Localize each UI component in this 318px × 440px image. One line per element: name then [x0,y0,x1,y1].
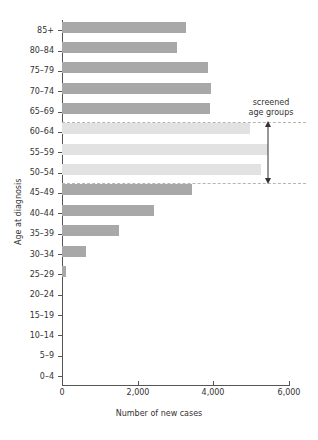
y-axis-tick [58,356,62,357]
y-axis-tick-label: 45–49 [0,188,54,197]
bar-35-39 [62,225,119,236]
screened-age-groups-label-line1: screened [228,98,314,108]
y-axis-tick-label: 70–74 [0,87,54,96]
y-axis-tick-label: 35–39 [0,229,54,238]
bar-40-44 [62,205,154,216]
x-axis-tick [62,381,63,385]
screened-range-arrow-icon [260,120,276,185]
y-axis-line [62,20,63,386]
bar-50-54 [62,164,261,175]
y-axis-tick-label: 10–14 [0,331,54,340]
bar-55-59 [62,144,268,155]
y-axis-tick-label: 15–19 [0,311,54,320]
y-axis-tick-label: 65–69 [0,107,54,116]
bar-45-49 [62,184,192,195]
bar-70-74 [62,83,211,94]
y-axis-tick-label: 50–54 [0,168,54,177]
bar-65-69 [62,103,210,114]
bar-60-64 [62,123,250,134]
y-axis-tick-label: 5–9 [0,351,54,360]
y-axis-tick [58,335,62,336]
bar-25-29 [62,266,66,277]
screened-age-groups-label-line2: age groups [228,108,314,118]
x-axis-tick-label: 4,000 [202,388,225,397]
y-axis-tick-label: 30–34 [0,250,54,259]
x-axis-tick-label: 2,000 [127,388,150,397]
bar-80-84 [62,42,177,53]
x-axis-tick-label: 6,000 [278,388,301,397]
bar-75-79 [62,62,208,73]
y-axis-tick [58,376,62,377]
y-axis-tick [58,315,62,316]
y-axis-tick-label: 75–79 [0,66,54,75]
y-axis-tick-label: 20–24 [0,290,54,299]
x-axis-tick-label: 0 [59,388,64,397]
x-axis-tick [289,381,290,385]
bar-85+ [62,22,186,33]
y-axis-title: Age at diagnosis [14,179,23,245]
x-axis-tick [138,381,139,385]
x-axis-tick [213,381,214,385]
horizontal-bar-chart: 0–45–910–1415–1920–2425–2930–3435–3940–4… [0,0,318,440]
x-axis-line [62,385,290,386]
x-axis-title: Number of new cases [0,409,318,418]
bar-30-34 [62,246,86,257]
y-axis-tick [58,295,62,296]
y-axis-tick-label: 40–44 [0,209,54,218]
y-axis-tick-label: 60–64 [0,127,54,136]
y-axis-tick-label: 80–84 [0,46,54,55]
y-axis-tick-label: 85+ [0,26,54,35]
screened-age-groups-label: screenedage groups [228,98,314,118]
y-axis-tick-label: 0–4 [0,372,54,381]
y-axis-tick-label: 55–59 [0,148,54,157]
y-axis-tick-label: 25–29 [0,270,54,279]
